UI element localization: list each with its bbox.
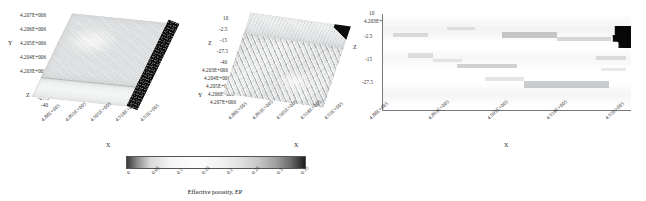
panel-3-cell xyxy=(524,81,608,88)
panel-3-cell xyxy=(447,27,474,30)
panel-2-y-tick-4: 4.207E+006 xyxy=(210,100,236,105)
panel-3-cell xyxy=(502,32,557,38)
panel-2-block xyxy=(223,13,351,108)
panel-3-cell xyxy=(408,53,433,58)
panel-2-y-tick-0: 4.203E+006 xyxy=(202,68,228,73)
figure-effective-porosity: Y 4.207E+006 4.206E+006 4.205E+006 4.204… xyxy=(0,0,646,201)
panel-2-z-tick-4: -40 xyxy=(220,60,227,65)
panel-1-block xyxy=(32,13,177,106)
panel-1: Y 4.207E+006 4.206E+006 4.205E+006 4.204… xyxy=(0,0,205,150)
colorbar-title: Effective porosity, EP xyxy=(126,188,304,195)
panel-3-z-tick-1: -2.5 xyxy=(364,34,372,39)
panel-1-y-tick-1: 4.206E+006 xyxy=(20,27,46,32)
panel-2-z-axis-title: Z xyxy=(208,40,212,46)
panel-3: Z 10 -2.5 -15 -27.5 4.203E+006 4.88E+005… xyxy=(350,0,646,150)
panel-2-main-face xyxy=(223,34,343,108)
panel-2-z-tick-0: 10 xyxy=(223,16,228,21)
panel-3-laminae xyxy=(383,14,631,110)
panel-3-cell xyxy=(596,56,626,60)
panel-2-x-axis-title: X xyxy=(294,142,298,148)
panel-1-x-tick-1: 4.893E+005 xyxy=(64,101,87,122)
panel-1-x-tick-4: 4.93E+005 xyxy=(139,103,160,122)
panel-3-cell xyxy=(393,33,428,37)
panel-3-cell xyxy=(457,64,517,68)
panel-2-z-tick-3: -27.5 xyxy=(217,49,228,54)
panel-2-light-zone xyxy=(272,68,316,96)
panel-1-y-tick-0: 4.207E+006 xyxy=(20,13,46,18)
panel-2-x-tick-4: 4.93E+005 xyxy=(323,101,344,120)
panel-3-x-axis-title: X xyxy=(504,142,508,148)
panel-3-cell xyxy=(485,77,525,81)
panel-1-z-axis-title: Z xyxy=(26,92,30,98)
panel-2-z-tick-2: -15 xyxy=(220,38,227,43)
panel-1-y-tick-3: 4.204E+006 xyxy=(20,55,46,60)
panel-2-x-tick-1: 4.893E+005 xyxy=(251,99,274,120)
panel-2-y-axis-title: Y xyxy=(198,92,202,98)
panel-3-z-axis-title: Z xyxy=(353,44,357,50)
colorbar-tick-0: 0 xyxy=(125,169,131,175)
panel-3-cell xyxy=(601,68,626,71)
panel-2-dark-corner-zone xyxy=(330,24,351,40)
panel-1-x-axis-title: X xyxy=(106,142,110,148)
panel-2-z-tick-1: -2.5 xyxy=(219,27,227,32)
panel-3-z-tick-2: -15 xyxy=(365,57,372,62)
panel-1-y-tick-2: 4.205E+006 xyxy=(20,41,46,46)
panel-1-y-axis-title: Y xyxy=(8,40,12,46)
panel-2-y-tick-1: 4.204E+006 xyxy=(204,76,230,81)
panel-3-cell xyxy=(433,59,463,62)
panel-3-cell xyxy=(557,37,612,41)
panel-3-z-tick-0: 10 xyxy=(369,11,374,16)
panel-2: Z 10 -2.5 -15 -27.5 -40 4.203E+006 4.204… xyxy=(205,0,350,150)
panel-1-z-tick-4: -40 xyxy=(41,103,48,108)
panel-3-z-tick-3: -27.5 xyxy=(362,80,373,85)
panel-3-cross-section xyxy=(382,14,631,111)
panel-1-x-tick-2: 4.905E+005 xyxy=(89,101,112,122)
